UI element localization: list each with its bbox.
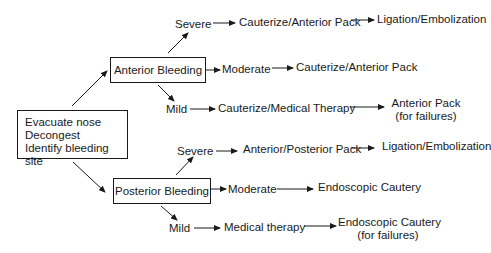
- anterior-bleeding-box: Anterior Bleeding: [110, 57, 206, 83]
- posterior-moderate-step1: Endoscopic Cautery: [318, 181, 421, 194]
- posterior-mild-label: Mild: [169, 222, 190, 235]
- posterior-mild-step2-text: Endoscopic Cautery: [338, 216, 438, 229]
- step-decongest: Decongest: [25, 129, 127, 142]
- anterior-bleeding-label: Anterior Bleeding: [111, 64, 205, 76]
- posterior-mild-step2: Endoscopic Cautery (for failures): [338, 216, 438, 242]
- anterior-mild-step1: Cauterize/Medical Therapy: [218, 102, 355, 115]
- posterior-bleeding-label: Posterior Bleeding: [114, 185, 210, 197]
- posterior-severe-step2: Ligation/Embolization: [382, 140, 491, 153]
- posterior-bleeding-box: Posterior Bleeding: [113, 178, 211, 204]
- anterior-moderate-step1: Cauterize/Anterior Pack: [296, 61, 417, 74]
- posterior-moderate-label: Moderate: [228, 183, 277, 196]
- anterior-severe-step1: Cauterize/Anterior Pack: [239, 16, 360, 29]
- step-identify-site: Identify bleeding site: [25, 142, 127, 168]
- posterior-severe-step1: Anterior/Posterior Pack: [243, 143, 361, 156]
- posterior-mild-step2-note: (for failures): [338, 229, 438, 242]
- initial-steps-text: Evacuate nose Decongest Identify bleedin…: [25, 116, 127, 168]
- anterior-moderate-label: Moderate: [222, 63, 271, 76]
- posterior-mild-step1: Medical therapy: [224, 221, 305, 234]
- anterior-mild-step2-note: (for failures): [386, 110, 466, 123]
- posterior-severe-label: Severe: [177, 145, 213, 158]
- anterior-mild-step2-text: Anterior Pack: [386, 97, 466, 110]
- step-evacuate-nose: Evacuate nose: [25, 116, 127, 129]
- anterior-severe-label: Severe: [175, 18, 211, 31]
- anterior-mild-step2: Anterior Pack (for failures): [386, 97, 466, 123]
- anterior-severe-step2: Ligation/Embolization: [377, 13, 486, 26]
- anterior-mild-label: Mild: [166, 103, 187, 116]
- initial-steps-box: Evacuate nose Decongest Identify bleedin…: [17, 110, 128, 159]
